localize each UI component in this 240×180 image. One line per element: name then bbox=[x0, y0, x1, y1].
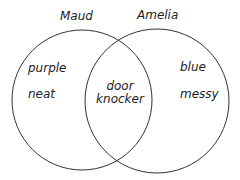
maud-item-purple: purple bbox=[28, 62, 67, 74]
maud-label: Maud bbox=[60, 10, 93, 22]
maud-item-neat: neat bbox=[28, 88, 55, 100]
amelia-label: Amelia bbox=[137, 9, 178, 21]
amelia-item-messy: messy bbox=[180, 88, 219, 100]
intersection-line2: knocker bbox=[95, 93, 145, 105]
amelia-item-blue: blue bbox=[180, 61, 206, 73]
intersection-line1: door bbox=[97, 80, 143, 92]
